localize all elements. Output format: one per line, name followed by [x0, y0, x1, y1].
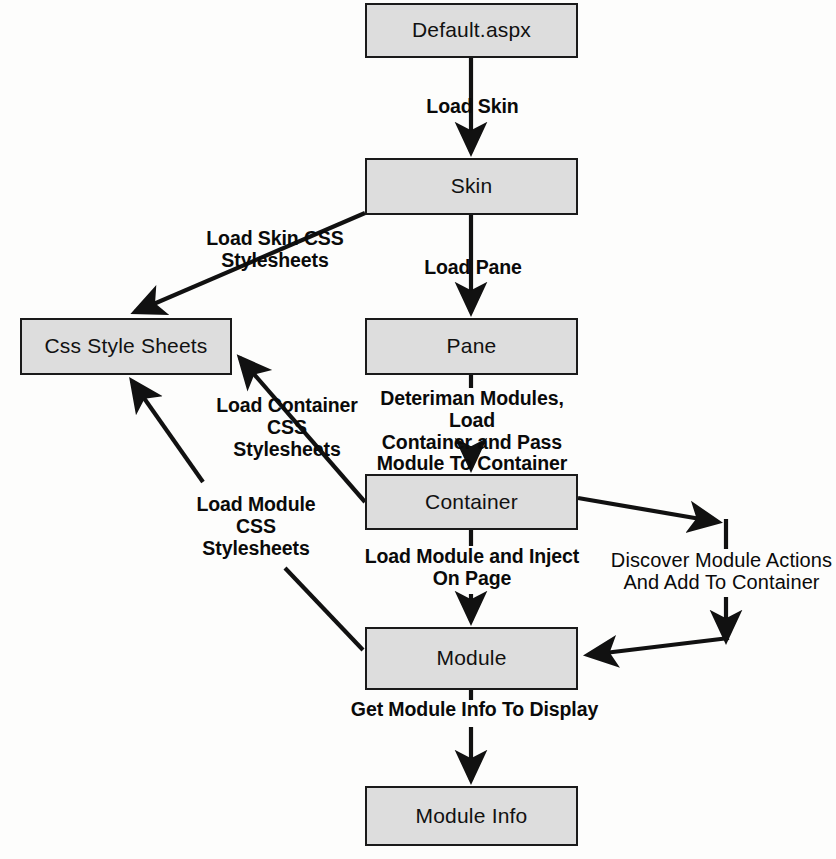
node-skin-label: Skin [451, 174, 493, 198]
edge-label-load-module-css-stylesheets: Load Module CSS Stylesheets [181, 494, 331, 559]
node-module[interactable]: Module [365, 627, 578, 690]
node-module-label: Module [436, 646, 506, 670]
edge-label-load-pane: Load Pane [420, 257, 526, 279]
node-default-aspx-label: Default.aspx [412, 18, 531, 42]
flowchart-diagram: Default.aspx Skin Css Style Sheets Pane … [0, 0, 836, 859]
edge-label-load-container-css-stylesheets: Load Container CSS Stylesheets [212, 395, 362, 460]
node-module-info[interactable]: Module Info [365, 786, 578, 846]
node-css-style-sheets-label: Css Style Sheets [44, 334, 207, 358]
node-css-style-sheets[interactable]: Css Style Sheets [20, 318, 232, 375]
edge-label-get-module-info-to-display: Get Module Info To Display [347, 699, 602, 721]
node-container-label: Container [425, 490, 518, 514]
node-skin[interactable]: Skin [365, 158, 578, 215]
node-container[interactable]: Container [365, 474, 578, 530]
edge-label-discover-module-actions: Discover Module Actions And Add To Conta… [607, 549, 836, 594]
edge-label-load-skin: Load Skin [425, 96, 520, 118]
edge-label-determine-modules: Deteriman Modules, Load Container and Pa… [360, 388, 584, 475]
node-pane-label: Pane [447, 334, 497, 358]
node-module-info-label: Module Info [416, 804, 528, 828]
node-default-aspx[interactable]: Default.aspx [365, 3, 578, 58]
node-pane[interactable]: Pane [365, 318, 578, 375]
edge-label-load-module-and-inject: Load Module and Inject On Page [362, 546, 582, 590]
edge-label-load-skin-css-stylesheets: Load Skin CSS Stylesheets [186, 228, 364, 272]
